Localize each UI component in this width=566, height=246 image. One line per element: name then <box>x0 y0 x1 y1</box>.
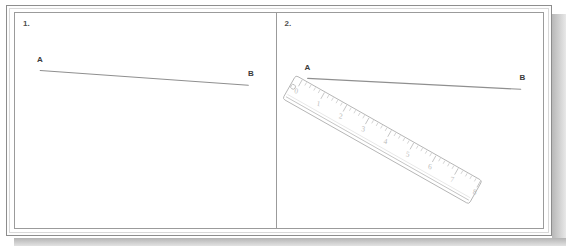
worksheet-figure: 1. A B 2. A B 012345678 <box>0 0 566 246</box>
line-segment-ab <box>307 78 520 89</box>
ruler-numeral: 8 <box>472 187 477 197</box>
panel-2-drawing: 012345678 <box>277 13 544 228</box>
panel-1: 1. A B <box>15 13 277 228</box>
ruler-bevel-edge <box>286 97 469 200</box>
ruler-body <box>282 75 481 204</box>
ruler-icon: 012345678 <box>282 75 484 205</box>
line-segment-ab <box>40 70 248 85</box>
panel-container: 1. A B 2. A B 012345678 <box>14 12 544 229</box>
frame-shadow-right <box>552 14 566 242</box>
ruler-bevel-edge-secondary <box>287 94 470 197</box>
panel-2: 2. A B 012345678 <box>277 13 544 228</box>
panel-1-drawing <box>15 13 276 228</box>
frame-shadow-bottom <box>14 238 566 246</box>
